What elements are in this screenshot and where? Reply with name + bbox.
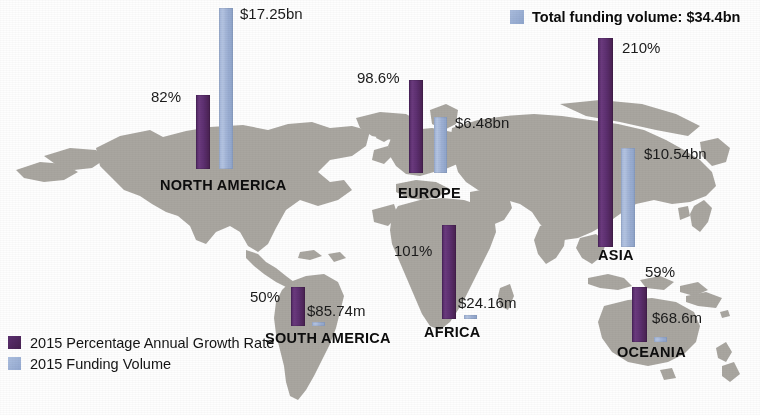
funding-bar-africa — [464, 315, 477, 319]
growth-value-oceania: 59% — [645, 264, 675, 280]
region-label-oceania: OCEANIA — [617, 345, 686, 360]
funding-value-africa: $24.16m — [458, 295, 516, 311]
total-funding-header: Total funding volume: $34.4bn — [510, 9, 740, 25]
growth-bar-north-america — [196, 95, 210, 169]
growth-bar-south-america — [291, 287, 305, 326]
funding-swatch-icon — [8, 357, 21, 370]
legend-label-funding: 2015 Funding Volume — [30, 356, 171, 372]
legend: 2015 Percentage Annual Growth Rate 2015 … — [8, 332, 274, 374]
region-label-europe: EUROPE — [398, 186, 461, 201]
growth-value-africa: 101% — [394, 243, 432, 259]
funding-bar-north-america — [219, 8, 233, 169]
funding-bar-europe — [434, 117, 447, 173]
growth-value-north-america: 82% — [151, 89, 181, 105]
funding-value-south-america: $85.74m — [307, 303, 365, 319]
funding-value-north-america: $17.25bn — [240, 6, 303, 22]
growth-bar-africa — [442, 225, 456, 319]
funding-value-oceania: $68.6m — [652, 310, 702, 326]
legend-label-growth: 2015 Percentage Annual Growth Rate — [30, 335, 274, 351]
funding-value-europe: $6.48bn — [455, 115, 509, 131]
funding-swatch-icon — [510, 10, 524, 24]
region-label-north-america: NORTH AMERICA — [160, 178, 287, 193]
total-funding-label: Total funding volume: $34.4bn — [532, 9, 740, 25]
legend-item-growth: 2015 Percentage Annual Growth Rate — [8, 332, 274, 353]
funding-bar-oceania — [654, 337, 667, 342]
growth-bar-europe — [409, 80, 423, 173]
region-label-asia: ASIA — [598, 248, 634, 263]
growth-value-asia: 210% — [622, 40, 660, 56]
infographic-canvas: 82% $17.25bn 50% $85.74m 98.6% $6.48bn 1… — [0, 0, 760, 415]
funding-bar-asia — [621, 148, 635, 247]
growth-value-south-america: 50% — [250, 289, 280, 305]
growth-swatch-icon — [8, 336, 21, 349]
funding-bar-south-america — [312, 322, 325, 326]
legend-item-funding: 2015 Funding Volume — [8, 353, 274, 374]
region-label-africa: AFRICA — [424, 325, 481, 340]
growth-bar-asia — [598, 38, 613, 247]
region-label-south-america: SOUTH AMERICA — [265, 330, 361, 346]
funding-value-asia: $10.54bn — [644, 146, 707, 162]
growth-bar-oceania — [632, 287, 647, 342]
growth-value-europe: 98.6% — [357, 70, 400, 86]
